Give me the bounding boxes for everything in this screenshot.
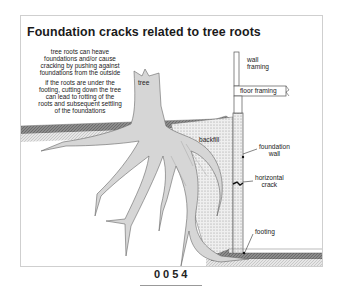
label-horizontal-crack: horizontal crack xyxy=(255,174,284,188)
wall-framing-stud xyxy=(234,52,239,86)
label-tree: tree xyxy=(138,79,149,86)
note-rotting: if the roots are under the footing, cutt… xyxy=(30,79,130,114)
diagram-frame: Foundation cracks related to tree roots … xyxy=(20,15,323,267)
diagram-title: Foundation cracks related to tree roots xyxy=(27,25,261,39)
label-wall-framing: wall framing xyxy=(247,56,269,70)
page-number-underline xyxy=(140,285,202,286)
label-foundation-wall: foundation wall xyxy=(259,143,290,157)
page-number: 0054 xyxy=(154,268,190,280)
label-backfill: backfill xyxy=(199,136,219,143)
note-heave: tree roots can heave foundations and/or … xyxy=(30,48,130,76)
label-floor-framing: floor framing xyxy=(240,87,277,94)
label-footing: footing xyxy=(255,228,275,235)
